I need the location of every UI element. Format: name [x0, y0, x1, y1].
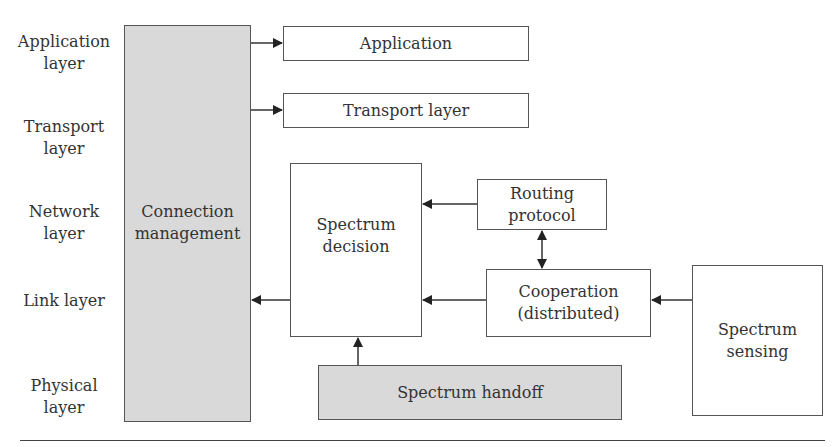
spectrum-decision-box: Spectrum decision — [290, 163, 422, 337]
spectrum-sensing-label: Spectrum sensing — [718, 319, 797, 363]
connection-management-box: Connection management — [124, 25, 251, 422]
spectrum-handoff-label: Spectrum handoff — [397, 382, 543, 404]
spectrum-sensing-box: Spectrum sensing — [692, 265, 823, 416]
layer-label-physical: Physical layer — [10, 375, 118, 419]
application-box-label: Application — [360, 33, 452, 55]
layer-label-network: Network layer — [10, 201, 118, 245]
spectrum-decision-label: Spectrum decision — [316, 214, 395, 258]
layer-label-application: Application layer — [10, 31, 118, 75]
bottom-rule — [20, 440, 825, 441]
spectrum-handoff-box: Spectrum handoff — [318, 365, 622, 420]
transport-layer-box: Transport layer — [283, 93, 529, 128]
application-box: Application — [283, 26, 529, 61]
layer-label-link: Link layer — [10, 290, 118, 312]
transport-layer-box-label: Transport layer — [343, 100, 469, 122]
routing-protocol-label: Routing protocol — [508, 183, 575, 227]
routing-protocol-box: Routing protocol — [477, 179, 607, 230]
layer-label-transport: Transport layer — [10, 116, 118, 160]
cooperation-label: Cooperation (distributed) — [518, 281, 620, 325]
connection-management-label: Connection management — [135, 201, 241, 245]
cooperation-box: Cooperation (distributed) — [486, 269, 651, 337]
